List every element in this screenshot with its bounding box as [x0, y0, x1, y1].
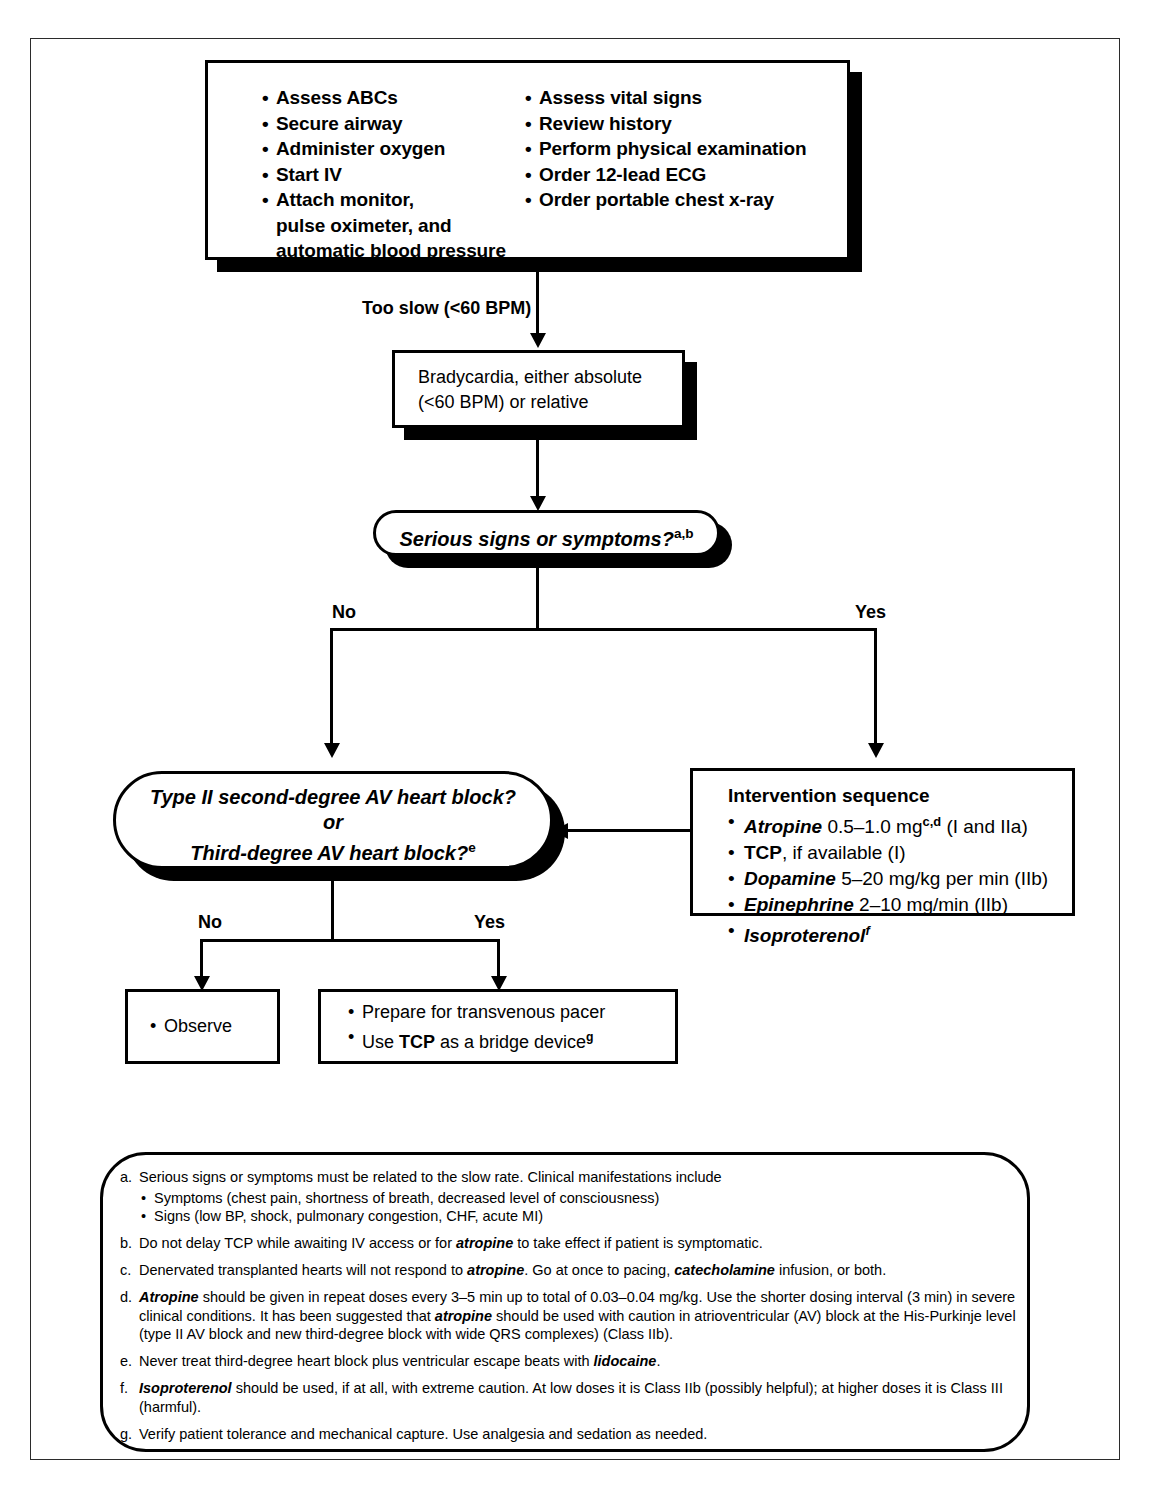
connector-block-no-leg	[200, 939, 203, 977]
connector-symptoms-stem	[536, 568, 539, 630]
block-decision-line-3: Third-degree AV heart block?	[190, 842, 468, 864]
edge-label-too-slow: Too slow (<60 BPM)	[362, 298, 531, 319]
block-decision-line-2: or	[113, 810, 553, 835]
connector-block-yes-leg	[497, 939, 500, 977]
assessment-item: Start IV	[262, 162, 512, 188]
bradycardia-line-1: Bradycardia, either absolute	[418, 365, 678, 390]
footnote-text-mid: . Go at once to pacing,	[524, 1262, 674, 1278]
footnote-text-post: .	[656, 1353, 660, 1369]
block-decision-line-3-wrap: Third-degree AV heart block?e	[113, 835, 553, 866]
footnote-c: c. Denervated transplanted hearts will n…	[120, 1261, 1020, 1280]
drug-footnote-mark: f	[865, 923, 869, 938]
pacer-line2-pre: Use	[362, 1032, 399, 1052]
assessment-item: Order portable chest x-ray	[525, 187, 845, 213]
assessment-item-cont: pulse oximeter, and	[262, 213, 512, 239]
assessment-item: Attach monitor,	[262, 187, 512, 213]
footnote-marker: c.	[120, 1261, 131, 1280]
branch-label-symptoms-no: No	[332, 602, 356, 623]
connector-symptoms-yes-leg	[874, 628, 877, 744]
assessment-item: Order 12-lead ECG	[525, 162, 845, 188]
drug-dose: 5–20 mg/kg per min (IIb)	[836, 868, 1048, 889]
footnote-marker: a.	[120, 1168, 132, 1187]
connector-block-horizontal	[200, 939, 500, 942]
connector-block-stem	[331, 881, 334, 941]
footnote-text-post: infusion, or both.	[775, 1262, 886, 1278]
intervention-item: Epinephrine 2–10 mg/min (IIb)	[728, 892, 1068, 918]
bradycardia-box-text: Bradycardia, either absolute (<60 BPM) o…	[418, 365, 678, 415]
footnote-text-post: should be used, if at all, with extreme …	[139, 1380, 1003, 1415]
intervention-title: Intervention sequence	[728, 783, 1068, 809]
intervention-item: Dopamine 5–20 mg/kg per min (IIb)	[728, 866, 1068, 892]
footnote-emphasis: Atropine	[139, 1289, 199, 1305]
assessment-item: Secure airway	[262, 111, 512, 137]
footnote-text-pre: Do not delay TCP while awaiting IV acces…	[139, 1235, 456, 1251]
intervention-item: TCP, if available (I)	[728, 840, 1068, 866]
assessment-item: Assess ABCs	[262, 85, 512, 111]
footnote-text: Serious signs or symptoms must be relate…	[139, 1169, 722, 1185]
connector-bradycardia-to-symptoms	[536, 440, 539, 498]
symptoms-decision-label: Serious signs or symptoms?	[399, 528, 674, 550]
footnote-subitem: Symptoms (chest pain, shortness of breat…	[139, 1189, 1020, 1208]
footnote-e: e. Never treat third-degree heart block …	[120, 1352, 1020, 1371]
intervention-sequence-content: Intervention sequence Atropine 0.5–1.0 m…	[728, 783, 1068, 950]
footnote-text: Verify patient tolerance and mechanical …	[139, 1426, 707, 1442]
pacer-item: Use TCP as a bridge deviceg	[348, 1025, 678, 1055]
footnote-text-post: to take effect if patient is symptomatic…	[513, 1235, 763, 1251]
assessment-item: Review history	[525, 111, 845, 137]
footnote-text-pre: Never treat third-degree heart block plu…	[139, 1353, 594, 1369]
arrowhead-yes-branch	[868, 743, 884, 758]
drug-name: Atropine	[744, 816, 822, 837]
footnote-emphasis-2: atropine	[435, 1308, 492, 1324]
arrowhead-no-branch	[324, 743, 340, 758]
drug-class: (I and IIa)	[941, 816, 1028, 837]
observe-box-text: Observe	[150, 1014, 280, 1039]
assessment-item: Administer oxygen	[262, 136, 512, 162]
footnote-f: f. Isoproterenol should be used, if at a…	[120, 1379, 1020, 1416]
footnote-marker: b.	[120, 1234, 132, 1253]
footnotes-content: a. Serious signs or symptoms must be rel…	[120, 1168, 1020, 1452]
branch-label-block-no: No	[198, 912, 222, 933]
footnote-d: d. Atropine should be given in repeat do…	[120, 1288, 1020, 1344]
drug-name: TCP	[744, 842, 782, 863]
footnote-g: g. Verify patient tolerance and mechanic…	[120, 1425, 1020, 1444]
initial-assessment-right-column: Assess vital signs Review history Perfor…	[525, 85, 845, 213]
connector-assessment-to-bradycardia	[536, 272, 539, 334]
connector-symptoms-no-leg	[330, 628, 333, 744]
drug-name: Dopamine	[744, 868, 836, 889]
footnote-a: a. Serious signs or symptoms must be rel…	[120, 1168, 1020, 1226]
drug-name: Epinephrine	[744, 894, 854, 915]
pacer-item: Prepare for transvenous pacer	[348, 1000, 678, 1025]
footnote-emphasis-2: catecholamine	[674, 1262, 775, 1278]
pacer-footnote-mark: g	[586, 1030, 593, 1044]
footnote-marker: g.	[120, 1425, 132, 1444]
drug-dose: , if available (I)	[782, 842, 906, 863]
intervention-item: Isoproterenolf	[728, 918, 1068, 949]
connector-intervention-to-block	[568, 829, 692, 832]
block-footnote-mark: e	[468, 840, 476, 855]
branch-label-block-yes: Yes	[474, 912, 505, 933]
drug-name: Isoproterenol	[744, 926, 865, 947]
pacer-box-text: Prepare for transvenous pacer Use TCP as…	[348, 1000, 678, 1055]
pacer-line2-post: as a bridge device	[435, 1032, 586, 1052]
symptoms-decision-text: Serious signs or symptoms?a,b	[373, 521, 720, 552]
assessment-item: Assess vital signs	[525, 85, 845, 111]
drug-dose: 0.5–1.0 mg	[822, 816, 922, 837]
footnote-emphasis: atropine	[456, 1235, 513, 1251]
drug-dose: 2–10 mg/min (IIb)	[854, 894, 1008, 915]
assessment-item-cont: automatic blood pressure	[262, 238, 512, 264]
footnote-marker: f.	[120, 1379, 128, 1398]
footnote-marker: d.	[120, 1288, 132, 1307]
intervention-item: Atropine 0.5–1.0 mgc,d (I and IIa)	[728, 809, 1068, 840]
footnote-marker: e.	[120, 1352, 132, 1371]
footnote-emphasis: Isoproterenol	[139, 1380, 232, 1396]
observe-item: Observe	[150, 1014, 280, 1039]
connector-symptoms-horizontal	[330, 628, 877, 631]
pacer-line2-bold: TCP	[399, 1032, 435, 1052]
assessment-item: Perform physical examination	[525, 136, 845, 162]
block-decision-line-1: Type II second-degree AV heart block?	[113, 785, 553, 810]
arrowhead-bradycardia	[530, 333, 546, 348]
footnote-text-pre: Denervated transplanted hearts will not …	[139, 1262, 467, 1278]
footnote-emphasis: atropine	[467, 1262, 524, 1278]
footnote-subitem: Signs (low BP, shock, pulmonary congesti…	[139, 1207, 1020, 1226]
symptoms-footnote-marks: a,b	[674, 526, 694, 541]
